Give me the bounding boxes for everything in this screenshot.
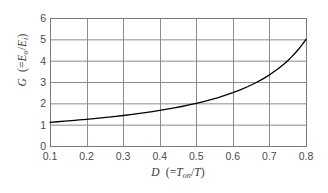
x-axis-label: D (=Ton/T): [50, 166, 306, 180]
y-axis-label: G (=Eo/Ei): [16, 0, 32, 120]
y-axis-close-paren: ): [16, 34, 28, 38]
y-tick-label: 1: [28, 120, 46, 130]
x-tick-label: 0.7: [249, 150, 289, 162]
x-tick-label: 0.2: [67, 150, 107, 162]
x-axis-symbol: D: [151, 166, 159, 178]
x-axis-tick-labels: 0.10.20.30.40.50.60.70.8: [0, 150, 328, 166]
x-tick-label: 0.5: [176, 150, 216, 162]
x-tick-label: 0.1: [30, 150, 70, 162]
x-tick-label: 0.6: [213, 150, 253, 162]
y-axis-slash: /: [16, 47, 28, 50]
x-tick-label: 0.3: [103, 150, 143, 162]
y-axis-numerator: E: [16, 54, 28, 61]
x-axis-open-paren: (=: [166, 166, 177, 178]
x-axis-numerator-subscript: on: [183, 171, 191, 180]
y-axis-denominator: E: [16, 40, 28, 47]
chart-figure: 0123456 0.10.20.30.40.50.60.70.8 G (=Eo/…: [0, 0, 328, 193]
y-axis-symbol: G: [16, 78, 28, 86]
y-axis-open-paren: (=: [16, 62, 28, 73]
y-axis-numerator-subscript: o: [21, 50, 30, 54]
x-tick-label: 0.4: [140, 150, 180, 162]
x-axis-close-paren: ): [201, 166, 205, 178]
x-tick-label: 0.8: [286, 150, 326, 162]
